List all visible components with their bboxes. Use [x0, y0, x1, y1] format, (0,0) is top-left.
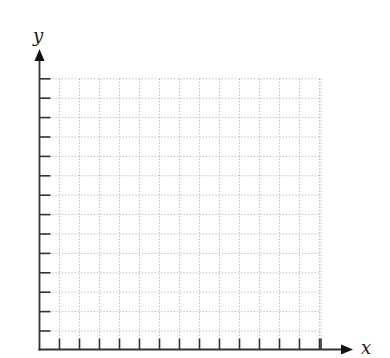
chart-svg: x y — [0, 0, 390, 358]
axes — [35, 49, 354, 355]
x-axis-arrowhead-icon — [341, 345, 353, 355]
coordinate-grid-figure: x y — [0, 0, 390, 358]
grid-lines — [40, 79, 322, 350]
x-axis-label: x — [361, 337, 371, 358]
y-axis-arrowhead-icon — [35, 49, 45, 61]
y-axis-label: y — [32, 25, 44, 46]
